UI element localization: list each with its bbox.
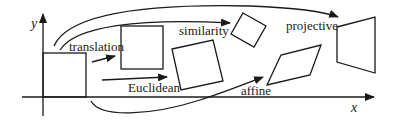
original-square — [43, 53, 86, 97]
projective-quad — [337, 17, 375, 73]
euclidean-label: Euclidean — [128, 80, 180, 95]
x-axis-label: x — [350, 100, 358, 115]
translation-label: translation — [69, 39, 124, 54]
similarity-label: similarity — [179, 23, 229, 38]
similarity-square — [231, 13, 266, 47]
projective-label: projective — [286, 18, 338, 33]
transformations-diagram: y x translation Euclidean similarity pro… — [0, 0, 394, 124]
translation-arrow — [92, 56, 115, 62]
translated-square — [121, 26, 163, 69]
y-axis-label: y — [29, 16, 38, 31]
affine-parallelogram — [267, 45, 321, 85]
translation-group: translation — [69, 26, 163, 69]
affine-label: affine — [241, 83, 271, 98]
